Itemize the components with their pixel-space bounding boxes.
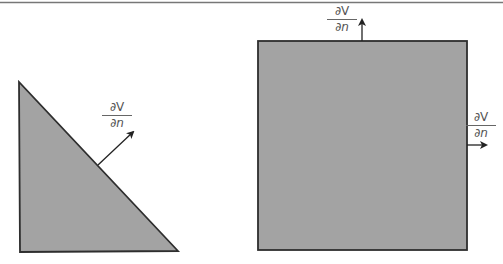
label-denominator: ∂n [327,20,357,34]
square-right-normal-label: ∂V ∂n [466,111,496,140]
label-denominator: ∂n [102,116,132,130]
square [258,41,467,250]
diagram-canvas [0,0,503,264]
square-top-normal-label: ∂V ∂n [327,5,357,34]
triangle-normal-arrow [98,132,133,165]
triangle-normal-label: ∂V ∂n [102,101,132,130]
label-numerator: ∂V [466,111,496,126]
label-numerator: ∂V [327,5,357,20]
label-denominator: ∂n [466,126,496,140]
right-triangle [19,82,178,252]
label-numerator: ∂V [102,101,132,116]
